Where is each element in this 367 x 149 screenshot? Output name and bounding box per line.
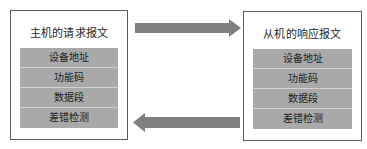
field-function-code: 功能码 bbox=[253, 69, 352, 89]
master-request-frame: 主机的请求报文 设备地址 功能码 数据段 差错检测 bbox=[10, 10, 128, 140]
field-error-check: 差错检测 bbox=[20, 108, 118, 128]
master-request-fields: 设备地址 功能码 数据段 差错检测 bbox=[20, 48, 118, 128]
slave-response-fields: 设备地址 功能码 数据段 差错检测 bbox=[253, 49, 352, 129]
field-function-code: 功能码 bbox=[20, 68, 118, 88]
field-error-check: 差错检测 bbox=[253, 109, 352, 129]
field-data-segment: 数据段 bbox=[20, 88, 118, 108]
slave-response-frame: 从机的响应报文 设备地址 功能码 数据段 差错检测 bbox=[243, 11, 362, 141]
field-data-segment: 数据段 bbox=[253, 89, 352, 109]
arrow-right-icon bbox=[135, 19, 241, 37]
slave-response-title: 从机的响应报文 bbox=[244, 25, 361, 41]
field-device-address: 设备地址 bbox=[253, 49, 352, 69]
arrow-left-icon bbox=[133, 113, 240, 132]
master-request-title: 主机的请求报文 bbox=[11, 24, 127, 40]
field-device-address: 设备地址 bbox=[20, 48, 118, 68]
